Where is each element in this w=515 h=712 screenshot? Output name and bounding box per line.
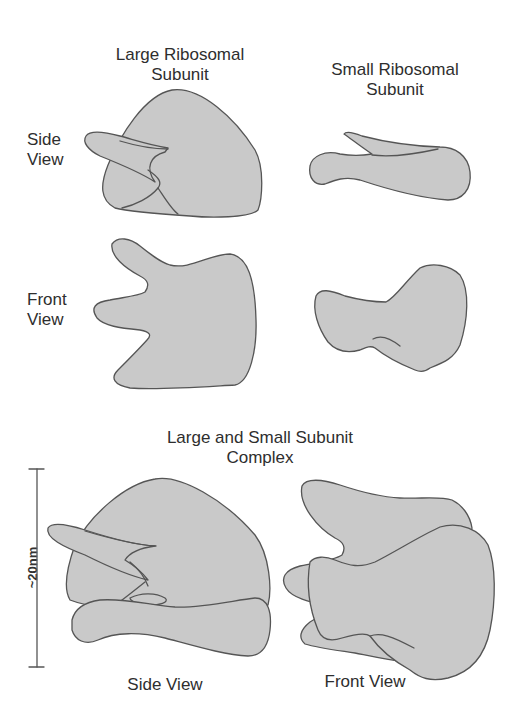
small-subunit-front-view — [315, 265, 467, 371]
scale-bar — [29, 469, 44, 667]
complex-side-view — [48, 478, 271, 656]
large-subunit-side-view — [85, 90, 262, 217]
large-subunit-front-view — [94, 239, 256, 389]
ribosome-diagram — [0, 0, 515, 712]
small-subunit-side-view — [310, 132, 471, 200]
complex-front-view — [284, 480, 495, 679]
